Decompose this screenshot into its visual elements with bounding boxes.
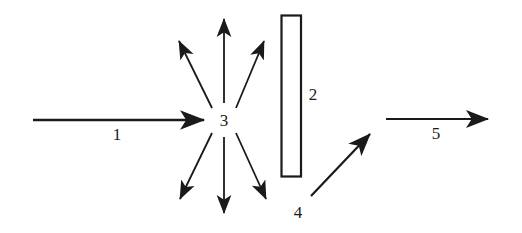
label-2: 2 [309, 86, 318, 103]
scatter-arrow-down-right [236, 133, 266, 199]
scatter-arrow-up-right [236, 41, 264, 108]
label-4: 4 [294, 204, 303, 221]
diagram-canvas [0, 0, 522, 233]
label-1: 1 [113, 126, 122, 143]
diagonal-output-arrow [311, 134, 370, 196]
label-5: 5 [432, 125, 441, 142]
scatter-arrow-up-left [179, 41, 212, 108]
scattering-diagram: 1 2 3 4 5 [0, 0, 522, 233]
vertical-slab [282, 16, 302, 177]
label-3: 3 [220, 112, 229, 129]
scatter-arrow-down-left [180, 133, 212, 199]
